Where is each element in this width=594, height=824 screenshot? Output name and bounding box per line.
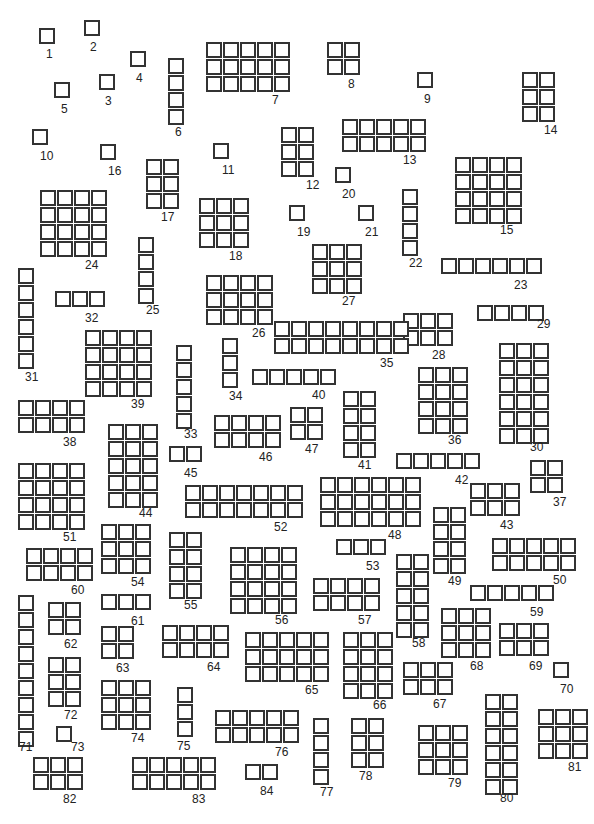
grid-cell [162, 625, 178, 641]
grid-cell [136, 330, 152, 346]
grid-label-71: 71 [19, 741, 32, 753]
grid-cell [60, 565, 76, 581]
grid-cell [420, 662, 436, 678]
grid-cell [539, 72, 555, 88]
grid-cell [118, 680, 134, 696]
grid-cell [18, 663, 34, 679]
grid-cell [351, 735, 367, 751]
grid-cell [343, 442, 359, 458]
grid-cell [396, 554, 412, 570]
grid-cell [118, 558, 134, 574]
grid-cell [213, 642, 229, 658]
grid-label-62: 62 [64, 638, 77, 650]
grid-cell [74, 190, 90, 206]
grid-cell [202, 485, 218, 501]
grid-cell [57, 207, 73, 223]
grid-cell [516, 623, 532, 639]
grid-cell [240, 292, 256, 308]
grid-cell [354, 477, 370, 493]
grid-cell [506, 191, 522, 207]
grid-label-63: 63 [116, 662, 129, 674]
grid-cell [347, 595, 363, 611]
cell-grid-61 [101, 594, 151, 610]
grid-cell [281, 161, 297, 177]
cell-grid-57 [313, 578, 380, 611]
grid-cell [504, 585, 520, 601]
grid-cell [296, 632, 312, 648]
grid-cell [470, 585, 486, 601]
grid-label-37: 37 [553, 496, 566, 508]
grid-cell [138, 254, 154, 270]
grid-cell [108, 458, 124, 474]
grid-cell [343, 632, 359, 648]
grid-cell [52, 514, 68, 530]
cell-grid-27 [312, 244, 362, 294]
grid-cell [214, 415, 230, 431]
grid-cell [547, 460, 563, 476]
grid-cell [441, 608, 457, 624]
grid-cell [236, 485, 252, 501]
grid-cell [504, 483, 520, 499]
grid-cell [538, 709, 554, 725]
cell-grid-22 [402, 189, 418, 256]
grid-cell [223, 42, 239, 58]
grid-cell [179, 642, 195, 658]
grid-cell [360, 442, 376, 458]
grid-label-82: 82 [63, 793, 76, 805]
grid-cell [118, 626, 134, 642]
grid-cell [289, 205, 305, 221]
grid-cell [118, 524, 134, 540]
grid-cell [450, 524, 466, 540]
grid-cell [470, 500, 486, 516]
grid-cell [539, 89, 555, 105]
grid-cell [346, 278, 362, 294]
grid-cell [371, 494, 387, 510]
grid-cell [216, 198, 232, 214]
grid-cell [270, 502, 286, 518]
grid-cell [18, 514, 34, 530]
grid-cell [18, 285, 34, 301]
cell-grid-1 [39, 28, 55, 44]
cell-grid-75 [177, 687, 193, 737]
grid-cell [185, 502, 201, 518]
grid-label-27: 27 [342, 295, 355, 307]
grid-cell [509, 258, 525, 274]
grid-cell [257, 275, 273, 291]
grid-cell [499, 623, 515, 639]
grid-cell [359, 321, 375, 337]
grid-cell [18, 595, 34, 611]
grid-cell [413, 588, 429, 604]
grid-cell [274, 42, 290, 58]
grid-cell [249, 727, 265, 743]
grid-cell [176, 379, 192, 395]
grid-cell [533, 360, 549, 376]
grid-cell [249, 710, 265, 726]
grid-cell [33, 774, 49, 790]
grid-cell [84, 20, 100, 36]
grid-cell [245, 632, 261, 648]
grid-cell [396, 588, 412, 604]
grid-label-38: 38 [63, 436, 76, 448]
grid-cell [526, 258, 542, 274]
grid-cell [485, 762, 501, 778]
cell-grid-68 [441, 608, 491, 658]
grid-cell [351, 718, 367, 734]
grid-cell [342, 338, 358, 354]
grid-cell [377, 632, 393, 648]
grid-cell [506, 208, 522, 224]
grid-cell [377, 666, 393, 682]
grid-cell [533, 640, 549, 656]
grid-cell [402, 189, 418, 205]
cell-grid-16 [100, 144, 116, 160]
grid-cell [257, 42, 273, 58]
grid-cell [320, 494, 336, 510]
grid-cell [376, 136, 392, 152]
cell-grid-59 [470, 585, 554, 601]
grid-cell [464, 453, 480, 469]
grid-cell [196, 625, 212, 641]
grid-cell [475, 642, 491, 658]
grid-cell [499, 343, 515, 359]
grid-cell [555, 726, 571, 742]
grid-cell [125, 441, 141, 457]
grid-cell [85, 330, 101, 346]
